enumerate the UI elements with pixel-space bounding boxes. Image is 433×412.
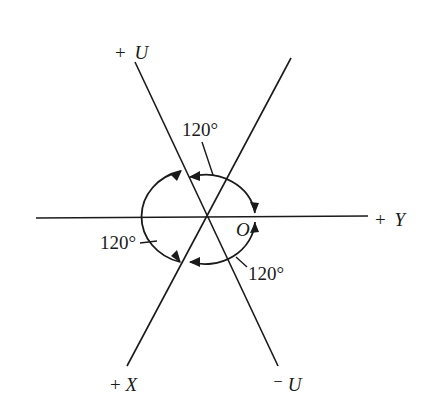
y-axis-line (36, 216, 368, 218)
arrow-down-icon (250, 202, 259, 213)
axis-letter-minus-u: U (288, 374, 303, 395)
axis-label-plus-x: + X (110, 374, 138, 395)
axis-letter-plus-u: U (134, 42, 149, 63)
axis-label-plus-u: + U (115, 42, 149, 63)
angle-label-y-x: 120° (248, 263, 284, 284)
axis-sign-plus-x: + (110, 374, 121, 395)
axis-label-minus-u: ⁻ U (273, 374, 303, 395)
angle-label-x-u: 120° (100, 232, 136, 253)
axis-label-plus-y: + Y (375, 209, 407, 230)
leader-angle-x-u (140, 241, 157, 243)
axis-sign-plus-u: + (115, 42, 126, 63)
origin-label: O (236, 219, 250, 240)
arrow-up-icon (250, 222, 259, 233)
axis-sign-plus-y: + (375, 209, 386, 230)
x-axis-line (127, 58, 291, 366)
axis-lines (36, 58, 368, 366)
axis-sign-minus-u: ⁻ (273, 374, 283, 395)
leader-angle-y-x (236, 257, 247, 267)
angle-label-u-y: 120° (182, 119, 218, 140)
coordinate-axes-diagram: 120° 120° 120° O + U + Y + X ⁻ U (0, 0, 433, 412)
u-axis-line (135, 62, 278, 366)
axis-letter-plus-y: Y (394, 209, 407, 230)
arrow-left-icon (189, 257, 200, 267)
axis-letter-plus-x: X (124, 374, 138, 395)
leader-angle-u-y (202, 142, 213, 175)
